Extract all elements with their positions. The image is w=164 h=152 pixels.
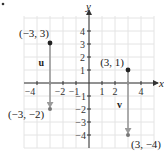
y-tick-label: −3 (75, 117, 86, 128)
vector-v-label: v (117, 99, 122, 110)
point-icon (48, 41, 53, 46)
point-icon (48, 107, 52, 111)
y-tick-label: 4 (80, 26, 85, 37)
y-tick-label: −2 (75, 104, 86, 115)
y-axis-label: y (85, 0, 91, 12)
point-icon (126, 133, 130, 137)
x-tick-label: 2 (113, 86, 118, 97)
point-label: (−3, −2) (8, 108, 45, 121)
y-tick-label: 2 (80, 52, 85, 63)
coordinate-plane: x y −4 −2 −1 1 2 4 4 3 2 1 −1 −2 −3 −4 u… (0, 0, 164, 152)
y-tick-label: 1 (80, 65, 85, 76)
point-label: (3, 1) (100, 56, 124, 69)
y-tick-label: −1 (75, 91, 86, 102)
point-label: (3, −4) (131, 138, 161, 151)
x-axis-label: x (158, 77, 164, 89)
x-tick-label: −4 (25, 86, 36, 97)
x-tick-label: −2 (55, 86, 66, 97)
vector-u: u (−3, 3) (−3, −2) (8, 27, 53, 121)
y-tick-label: −4 (75, 130, 86, 141)
vector-u-label: u (38, 57, 44, 68)
point-icon (126, 68, 131, 73)
corner-mark-icon (2, 3, 5, 6)
y-tick-label: 3 (80, 39, 85, 50)
point-label: (−3, 3) (19, 27, 49, 40)
x-tick-label: 1 (100, 86, 105, 97)
x-tick-label: 4 (139, 86, 144, 97)
